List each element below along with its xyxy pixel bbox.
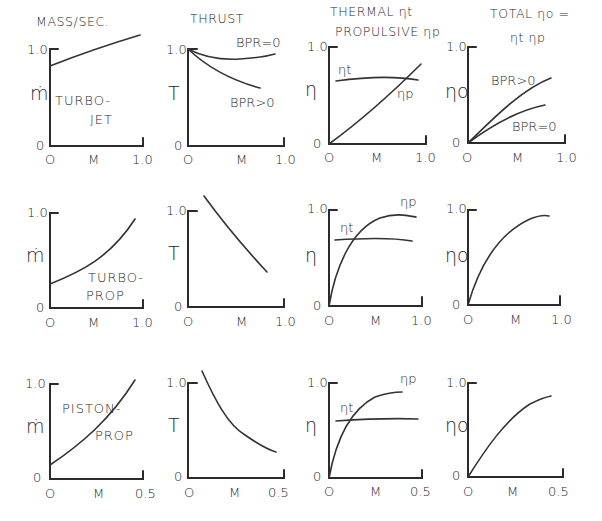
ytick-0: 0 bbox=[452, 468, 460, 483]
ytick-1: 1.0 bbox=[166, 203, 187, 218]
xtick-end: 0.5 bbox=[135, 486, 156, 501]
xtick-1: 1.0 bbox=[275, 314, 296, 329]
ytick-1: 1.0 bbox=[307, 201, 328, 216]
label-bpr-positive: BPR>0 bbox=[230, 95, 275, 110]
xtick-0: O bbox=[45, 486, 55, 501]
label-eta-t: ηt bbox=[340, 220, 353, 235]
chart-pistonprop-efficiency: 1.0 0 η O M 0.5 ηt ηp bbox=[305, 371, 431, 499]
axes bbox=[188, 383, 284, 478]
chart-turbojet-thrust: 1.0 0 T O M 1.0 BPR=0 BPR>0 bbox=[166, 35, 296, 167]
xtick-0: O bbox=[324, 150, 334, 165]
ylabel: T bbox=[168, 82, 180, 104]
ytick-0: 0 bbox=[313, 136, 321, 151]
ylabel: ηo bbox=[445, 80, 469, 102]
xlabel: M bbox=[507, 484, 518, 499]
xtick-1: 1.0 bbox=[132, 152, 153, 167]
header-total-product: ηt ηp bbox=[510, 30, 546, 45]
label-eta-p: ηp bbox=[397, 86, 414, 101]
ytick-1: 1.0 bbox=[25, 376, 46, 391]
xtick-0: O bbox=[184, 485, 194, 500]
ylabel: η bbox=[305, 244, 317, 266]
ytick-0: 0 bbox=[33, 470, 41, 485]
ytick-0: 0 bbox=[36, 138, 44, 153]
xtick-end: 0.5 bbox=[548, 484, 569, 499]
xlabel: M bbox=[88, 152, 99, 167]
xlabel: M bbox=[236, 152, 247, 167]
xlabel: M bbox=[510, 312, 521, 327]
xtick-0: O bbox=[462, 150, 472, 165]
label-bpr-positive: BPR>0 bbox=[491, 73, 536, 88]
ytick-0: 0 bbox=[174, 299, 182, 314]
xlabel: M bbox=[370, 313, 381, 328]
ytick-0: 0 bbox=[313, 298, 321, 313]
ytick-1: 1.0 bbox=[446, 201, 467, 216]
ytick-0: 0 bbox=[36, 300, 44, 315]
ylabel: ṁ bbox=[26, 415, 45, 437]
curve-thrust bbox=[204, 196, 267, 272]
xlabel: M bbox=[93, 486, 104, 501]
ytick-1: 1.0 bbox=[27, 42, 48, 57]
header-propulsive: PROPULSIVE ηp bbox=[335, 24, 440, 39]
label-turbo: TURBO- bbox=[88, 270, 144, 285]
xtick-1: 1.0 bbox=[415, 150, 436, 165]
xlabel: M bbox=[88, 315, 99, 330]
chart-pistonprop-thrust: 1.0 0 T O M 0.5 bbox=[166, 371, 289, 500]
chart-turboprop-thrust: 1.0 0 T O M 1.0 bbox=[166, 196, 296, 329]
xtick-0: O bbox=[324, 484, 334, 499]
chart-turbojet-efficiency: 1.0 0 η O M 1.0 ηt ηp bbox=[305, 39, 436, 165]
xtick-1: 1.0 bbox=[551, 312, 572, 327]
xlabel: M bbox=[371, 150, 382, 165]
header-thermal: THERMAL ηt bbox=[330, 4, 413, 19]
curve-bpr-positive bbox=[188, 49, 260, 88]
curve-mdot bbox=[50, 35, 140, 66]
header-thrust: THRUST bbox=[190, 11, 244, 26]
xtick-0: O bbox=[463, 484, 473, 499]
chart-pistonprop-total-efficiency: 1.0 0 ηo O M 0.5 bbox=[445, 375, 569, 499]
label-jet: JET bbox=[90, 112, 113, 127]
ylabel: T bbox=[168, 414, 180, 436]
axes bbox=[188, 211, 284, 307]
label-turbojet: TURBO- bbox=[55, 93, 111, 108]
header-total: TOTAL ηo = bbox=[490, 6, 570, 21]
ytick-0: 0 bbox=[174, 469, 182, 484]
ylabel: ηo bbox=[445, 244, 469, 266]
ylabel: η bbox=[305, 414, 317, 436]
ylabel: ṁ bbox=[30, 82, 49, 104]
label-piston: PISTON- bbox=[62, 401, 122, 416]
chart-turbojet-total-efficiency: 1.0 0 ηo O M 1.0 BPR>0 BPR=0 bbox=[445, 39, 577, 165]
xtick-1: 1.0 bbox=[275, 152, 296, 167]
ylabel: ηo bbox=[445, 414, 469, 436]
header-mass-sec: MASS/SEC. bbox=[36, 14, 109, 29]
engine-performance-chart-grid: MASS/SEC. THRUST THERMAL ηt PROPULSIVE η… bbox=[0, 0, 602, 521]
label-bpr-zero: BPR=0 bbox=[236, 35, 281, 50]
chart-turboprop-total-efficiency: 1.0 0 ηo O M 1.0 bbox=[445, 201, 572, 327]
curve-eta-o bbox=[468, 396, 551, 477]
xtick-0: O bbox=[45, 152, 55, 167]
chart-turbojet-mass: 1.0 0 ṁ O M 1.0 TURBO- JET bbox=[27, 35, 153, 167]
label-eta-t: ηt bbox=[340, 400, 353, 415]
label-bpr-zero: BPR=0 bbox=[512, 119, 557, 134]
xtick-1: 1.0 bbox=[411, 313, 432, 328]
axes bbox=[468, 210, 560, 305]
xtick-0: O bbox=[183, 152, 193, 167]
xlabel: M bbox=[236, 314, 247, 329]
curve-eta-t bbox=[336, 419, 418, 421]
label-prop: PROP bbox=[95, 428, 134, 443]
xtick-1: 1.0 bbox=[556, 150, 577, 165]
label-prop: PROP bbox=[86, 288, 125, 303]
label-eta-p: ηp bbox=[400, 194, 417, 209]
ytick-0: 0 bbox=[174, 138, 182, 153]
xtick-end: 0.5 bbox=[268, 485, 289, 500]
curve-bpr-zero bbox=[188, 49, 275, 59]
chart-turboprop-efficiency: 1.0 0 η O M 1.0 ηt ηp bbox=[305, 194, 432, 328]
label-eta-t: ηt bbox=[338, 62, 351, 77]
xlabel: M bbox=[229, 485, 240, 500]
ytick-1: 1.0 bbox=[166, 42, 187, 57]
xlabel: M bbox=[370, 484, 381, 499]
ytick-0: 0 bbox=[313, 469, 321, 484]
curve-thrust bbox=[202, 371, 276, 452]
xtick-1: 1.0 bbox=[132, 315, 153, 330]
curve-eta-t bbox=[335, 239, 412, 241]
ylabel: η bbox=[305, 78, 317, 100]
ytick-1: 1.0 bbox=[446, 375, 467, 390]
